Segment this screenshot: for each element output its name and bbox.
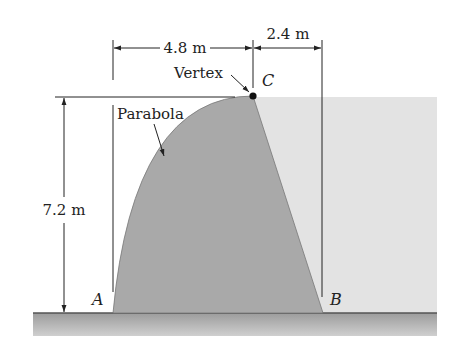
dim-label-7.2: 7.2 m	[43, 201, 86, 219]
dim-label-2.4: 2.4 m	[267, 25, 310, 43]
point-b-label: B	[329, 290, 342, 309]
point-c-label: C	[262, 71, 274, 90]
vertex-point-c	[249, 92, 256, 99]
point-a-label: A	[90, 290, 104, 309]
vertex-label: Vertex	[173, 64, 223, 82]
dam-diagram: 4.8 m 2.4 m 7.2 m Vertex C Parabola A B	[0, 0, 461, 339]
dim-label-4.8: 4.8 m	[164, 39, 207, 57]
ground	[33, 313, 437, 336]
parabola-label: Parabola	[117, 105, 184, 123]
vertex-leader	[231, 75, 249, 92]
